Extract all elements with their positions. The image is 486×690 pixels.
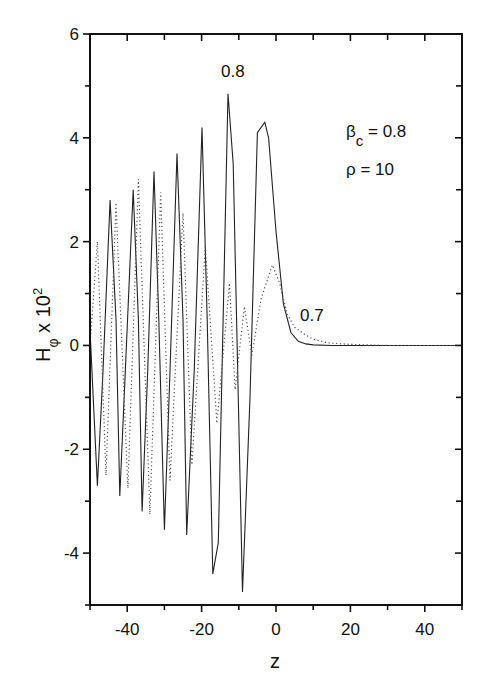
y-title-superscript: 2 [30,288,45,295]
beta-symbol: β [346,122,356,141]
curve-label-0.8: 0.8 [221,62,245,81]
parameter-rho: ρ = 10 [346,160,394,179]
x-tick-label: 20 [341,620,360,639]
x-tick-label: -20 [189,620,214,639]
y-tick-label: 6 [70,25,79,44]
y-tick-label: -2 [64,440,79,459]
y-tick-label: 2 [70,233,79,252]
y-tick-label: 0 [70,336,79,355]
y-title-main: H [32,348,54,362]
y-tick-label: 4 [70,129,79,148]
y-tick-label: -4 [64,544,79,563]
x-tick-label: -40 [115,620,140,639]
y-title-mid: x 10 [32,295,54,338]
curve-label-0.7: 0.7 [300,306,324,325]
x-tick-label: 0 [271,620,280,639]
y-title-subscript: φ [45,338,61,347]
x-axis-title: z [270,650,280,672]
beta-value: = 0.8 [363,122,406,141]
x-tick-label: 40 [415,620,434,639]
chart: -40-2002040-4-20246 0.8 0.7 βc = 0.8 ρ =… [0,0,486,690]
